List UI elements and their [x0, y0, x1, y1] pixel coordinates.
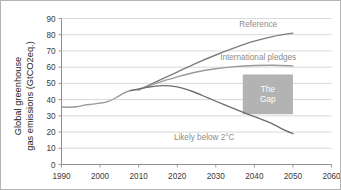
- x-tick-label-2020: 2020: [168, 172, 187, 181]
- y-tick-label-20: 20: [46, 128, 56, 137]
- x-axis-tick-labels: 19902000201020202030204020502060: [52, 172, 341, 181]
- y-axis-title-line-1: Global greenhouse: [13, 57, 23, 136]
- series-line-0: [62, 90, 139, 107]
- x-tick-label-2010: 2010: [130, 172, 149, 181]
- ghg-emissions-gap-chart: TheGap 0102030405060708090 1990200020102…: [0, 0, 341, 190]
- y-axis-title-line-2: gas emissions (GtCO2eq.): [25, 41, 35, 151]
- y-axis-title: Global greenhouse gas emissions (GtCO2eq…: [13, 41, 35, 151]
- y-tick-label-50: 50: [46, 79, 56, 88]
- y-axis-tick-labels: 0102030405060708090: [46, 15, 56, 170]
- x-tick-label-2030: 2030: [207, 172, 226, 181]
- x-tick-label-2000: 2000: [91, 172, 110, 181]
- the-gap-box-label-line-2: Gap: [260, 95, 276, 104]
- x-tick-label-2060: 2060: [322, 172, 341, 181]
- y-tick-label-30: 30: [46, 112, 56, 121]
- x-tick-label-2040: 2040: [245, 172, 264, 181]
- y-tick-label-90: 90: [46, 15, 56, 24]
- chart-plot-area: TheGap 0102030405060708090 1990200020102…: [1, 1, 341, 190]
- international-pledges-label: International pledges: [220, 53, 296, 62]
- reference-label: Reference: [239, 20, 277, 29]
- y-tick-label-70: 70: [46, 47, 56, 56]
- x-tick-label-1990: 1990: [52, 172, 71, 181]
- y-tick-label-10: 10: [46, 144, 56, 153]
- y-tick-label-40: 40: [46, 96, 56, 105]
- y-tick-label-0: 0: [51, 161, 56, 170]
- shaded-regions: TheGap: [243, 74, 293, 114]
- the-gap-box-label-line-1: The: [261, 85, 276, 94]
- y-tick-label-80: 80: [46, 31, 56, 40]
- x-tick-label-2050: 2050: [284, 172, 303, 181]
- y-tick-label-60: 60: [46, 63, 56, 72]
- likely-below-2c-label: Likely below 2°C: [174, 133, 235, 142]
